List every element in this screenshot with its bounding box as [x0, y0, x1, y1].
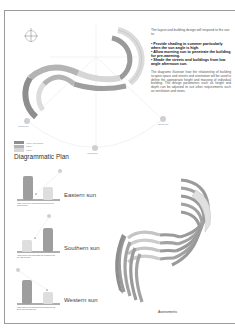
- north-compass-icon: [24, 28, 38, 42]
- section-title-southern: Southern sun: [64, 245, 100, 251]
- plan-legend: 3 storey max building 2 storey 1 storey: [14, 141, 43, 152]
- description-text: The diagrams illustrate how the relation…: [151, 71, 231, 94]
- design-goal-item: • Allow morning sun to penetrate the bui…: [151, 50, 231, 58]
- legend-label: 1 storey: [26, 149, 32, 151]
- section-eastern-drawing: [17, 169, 62, 200]
- section-western-drawing: [16, 268, 60, 304]
- section-southern-drawing: [17, 214, 60, 252]
- section-title-western: Western sun: [64, 297, 98, 303]
- sun-label-south: High angle sun: [87, 153, 98, 154]
- legend-item: 1 storey: [14, 148, 43, 152]
- design-goal-item: • Provide shading in summer particularly…: [151, 42, 231, 50]
- section-caption-eastern: Lower block to the east allows morning s…: [17, 202, 57, 206]
- section-title-eastern: Eastern sun: [64, 192, 96, 198]
- sun-label-east: Low angle sun: [158, 124, 168, 125]
- plan-title: Diagrammatic Plan: [14, 153, 69, 160]
- design-goal-item: • Shade the streets and buildings from l…: [151, 58, 231, 66]
- design-goals-list: • Provide shading in summer particularly…: [151, 42, 231, 67]
- sun-south-icon: [92, 145, 98, 151]
- intro-text: The layout and building design will resp…: [151, 29, 231, 37]
- axonometric-drawing: [115, 180, 211, 302]
- sun-west-icon: [24, 118, 30, 124]
- legend-swatch: [14, 148, 24, 151]
- section-caption-southern: Higher block to the south shade the buil…: [17, 254, 57, 258]
- section-caption-western: Higher block to the west shade the build…: [17, 306, 57, 310]
- legend-label: 3 storey max building: [26, 142, 43, 144]
- axonometric-title: Axonometric: [158, 310, 177, 314]
- legend-label: 2 storey: [26, 145, 32, 147]
- sun-label-west: Low angle sun: [18, 126, 28, 127]
- sun-east-icon: [160, 116, 166, 122]
- s-curve-buildings: [25, 30, 141, 117]
